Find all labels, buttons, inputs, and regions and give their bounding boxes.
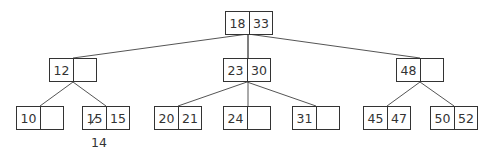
node-48: 48 [396,58,444,82]
node-key: 18 [226,12,249,34]
node-key: 20 [155,107,178,129]
tree-edge [248,34,420,58]
node-23-30: 23 30 [223,58,271,82]
node-key-struck: 15 [83,107,106,129]
node-key-empty [316,107,339,129]
node-key: 31 [293,107,316,129]
tree-edge [178,82,247,106]
node-12: 12 [49,58,97,82]
node-key-empty [247,107,270,129]
node-key-empty [420,59,443,81]
leaf-50-52: 50 52 [430,106,478,130]
node-key-empty [73,59,96,81]
leaf-15-15: 15 15 [82,106,130,130]
node-key: 45 [364,107,387,129]
tree-edge [40,82,73,106]
tree-edge [387,82,420,106]
leaf-31: 31 [292,106,340,130]
node-key: 50 [431,107,454,129]
leaf-10: 10 [16,106,64,130]
node-key: 12 [50,59,73,81]
tree-edge [247,82,316,106]
node-key: 10 [17,107,40,129]
node-key: 24 [224,107,247,129]
node-key: 52 [454,107,477,129]
node-key-empty [40,107,63,129]
node-key: 21 [178,107,201,129]
node-key: 47 [387,107,410,129]
node-key: 30 [247,59,270,81]
node-key: 15 [106,107,129,129]
insert-annotation: 14 [91,135,107,150]
node-key: 33 [249,12,272,34]
leaf-24: 24 [223,106,271,130]
tree-edge [420,82,454,106]
leaf-20-21: 20 21 [154,106,202,130]
root-node: 18 33 [225,11,273,35]
leaf-45-47: 45 47 [363,106,411,130]
tree-edge [73,34,248,58]
node-key: 48 [397,59,420,81]
tree-edge [73,82,106,106]
node-key: 23 [224,59,247,81]
